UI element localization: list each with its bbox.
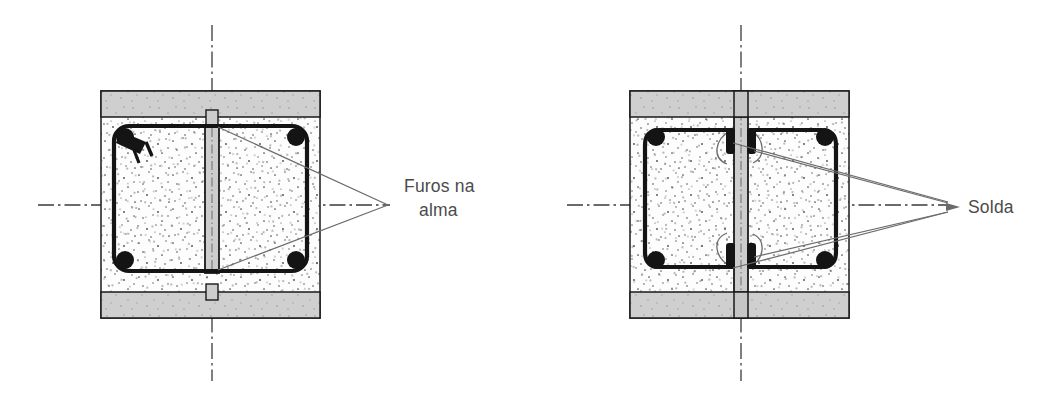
technical-diagram-root: Furos na alma Solda [0,0,1055,410]
rebar-bottom-right [816,251,834,269]
callout-label-line1: Furos na [404,176,475,196]
callout-label-line2: alma [419,200,458,220]
weld-bead-top-right [747,128,756,154]
cross-section-figure: Furos na alma Solda [0,0,1055,410]
rebar-bottom-right [287,251,305,269]
web-notch-bottom-left [206,284,218,300]
web-plate-flange-overlap-bottom [734,292,748,318]
web-plate-flange-overlap-top [734,91,748,117]
weld-bead-bottom-left [726,243,735,269]
rebar-top-right [287,128,305,146]
weld-bead-top-left [726,128,735,154]
web-notch-top-left [206,110,218,126]
weld-bead-bottom-right [747,243,756,269]
callout-label-line1: Solda [968,197,1014,217]
rebar-top-right [816,128,834,146]
rebar-bottom-left [116,251,134,269]
rebar-bottom-left [647,251,665,269]
rebar-top-left [647,128,665,146]
